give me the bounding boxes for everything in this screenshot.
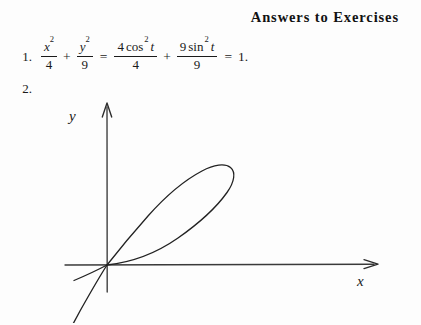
answer-1-equation: x2 4 + y2 9 = 4cos2t 4 + 9sin2t 9 = bbox=[40, 40, 248, 73]
answer-number-2: 2. bbox=[12, 82, 40, 95]
exponent-x: 2 bbox=[50, 34, 54, 44]
numerator-y-squared: y2 bbox=[77, 40, 93, 56]
loop-curve bbox=[107, 165, 234, 265]
equals-sign-2: = bbox=[218, 50, 238, 64]
argument-t: t bbox=[149, 39, 155, 54]
plus-operator-1: + bbox=[58, 50, 76, 64]
function-cos: cos bbox=[126, 39, 144, 54]
page-header: Answers to Exercises bbox=[0, 8, 399, 26]
numerator-9-sin-squared-t: 9sin2t bbox=[177, 40, 218, 56]
fraction-y-squared-over-9: y2 9 bbox=[77, 40, 93, 73]
equals-sign-1: = bbox=[94, 50, 114, 64]
exponent-y: 2 bbox=[85, 34, 89, 44]
answers-page: Answers to Exercises 1. x2 4 + y2 9 = 4c… bbox=[0, 0, 421, 325]
answer-item-2: 2. bbox=[12, 82, 40, 95]
denominator-9: 9 bbox=[78, 57, 91, 73]
exponent-cos: 2 bbox=[144, 34, 148, 44]
answer-item-1: 1. x2 4 + y2 9 = 4cos2t 4 + 9sin2t bbox=[12, 40, 248, 73]
variable-x: x bbox=[44, 39, 50, 54]
denominator-4: 4 bbox=[43, 57, 56, 73]
denominator-9: 9 bbox=[191, 57, 204, 73]
numerator-x-squared: x2 bbox=[41, 40, 57, 56]
answer-number-1: 1. bbox=[12, 50, 40, 63]
curve-plot: y x bbox=[52, 95, 397, 323]
fraction-9sin2t-over-9: 9sin2t 9 bbox=[177, 40, 218, 73]
function-sin: sin bbox=[188, 39, 204, 54]
numerator-4-cos-squared-t: 4cos2t bbox=[114, 40, 157, 56]
fraction-x-squared-over-4: x2 4 bbox=[41, 40, 57, 73]
argument-t: t bbox=[209, 39, 215, 54]
result-value: 1. bbox=[238, 50, 248, 64]
page-title: Answers to Exercises bbox=[251, 9, 399, 26]
answer-2-figure: y x bbox=[52, 95, 397, 323]
fraction-4cos2t-over-4: 4cos2t 4 bbox=[114, 40, 157, 73]
denominator-4: 4 bbox=[130, 57, 143, 73]
y-axis-label: y bbox=[67, 108, 76, 124]
plus-operator-2: + bbox=[158, 50, 176, 64]
x-axis-label: x bbox=[356, 273, 364, 289]
coefficient-4: 4 bbox=[117, 39, 126, 54]
exponent-sin: 2 bbox=[204, 34, 208, 44]
